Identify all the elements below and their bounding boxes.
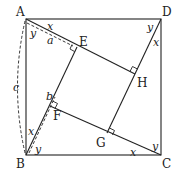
label-a: A	[15, 5, 25, 19]
angle-label-c-x: x	[130, 146, 137, 159]
angle-label-b-y: y	[34, 143, 42, 156]
segment-label-c: c	[13, 81, 19, 94]
label-h: H	[137, 76, 147, 90]
angle-label-a-y: y	[29, 27, 37, 40]
label-f: F	[53, 109, 61, 123]
label-b: B	[16, 157, 25, 171]
segment-label-b: b	[46, 90, 53, 103]
label-d: D	[162, 5, 172, 19]
angle-label-d-x: x	[153, 36, 160, 49]
angle-label-a-x: x	[47, 20, 54, 33]
angle-label-b-x: x	[28, 125, 35, 138]
angle-label-d-y: y	[146, 21, 154, 34]
label-c: C	[162, 157, 171, 171]
label-e: E	[79, 35, 88, 49]
segment-label-a: a	[47, 34, 54, 47]
geometry-diagram: A D B C E H G F x y y x y x x y a b c	[0, 0, 177, 179]
angle-label-c-y: y	[151, 140, 159, 153]
label-g: G	[96, 136, 106, 150]
